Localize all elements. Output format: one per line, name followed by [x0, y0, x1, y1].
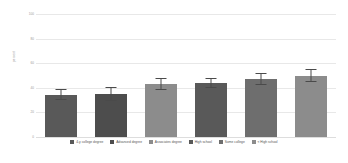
- legend-item[interactable]: Advanced degree: [110, 140, 142, 144]
- gridline: [36, 137, 336, 138]
- bar-chart: percent 100806040200 4-y college degreeA…: [0, 0, 348, 163]
- error-bar: [161, 78, 162, 90]
- error-bar-cap-bottom: [306, 81, 317, 82]
- legend-item[interactable]: High school: [189, 140, 212, 144]
- y-axis-tick-label: 100: [20, 13, 34, 16]
- y-axis-tick-label: 40: [20, 86, 34, 89]
- error-bar-cap-bottom: [256, 84, 267, 85]
- y-axis-tick-label: 0: [20, 136, 34, 139]
- legend-item-label: Associates degree: [155, 140, 182, 144]
- bar[interactable]: [245, 79, 277, 137]
- legend-swatch-icon: [110, 140, 114, 144]
- legend-swatch-icon: [70, 140, 74, 144]
- bar[interactable]: [45, 95, 77, 137]
- plot-area: [36, 14, 336, 137]
- legend-item-label: High school: [195, 140, 212, 144]
- error-bar-cap-top: [306, 69, 317, 70]
- legend-item-label: Some college: [225, 140, 245, 144]
- legend: 4-y college degreeAdvanced degreeAssocia…: [0, 140, 348, 144]
- bars-layer: [36, 14, 336, 137]
- y-axis-tick-label: 20: [20, 111, 34, 114]
- bar-group[interactable]: [145, 14, 177, 137]
- error-bar-cap-bottom: [106, 100, 117, 101]
- error-bar-cap-bottom: [156, 89, 167, 90]
- error-bar-cap-bottom: [56, 99, 67, 100]
- bar-group[interactable]: [95, 14, 127, 137]
- legend-item[interactable]: 4-y college degree: [70, 140, 103, 144]
- bar-group[interactable]: [45, 14, 77, 137]
- error-bar-cap-top: [106, 87, 117, 88]
- legend-item[interactable]: Associates degree: [149, 140, 182, 144]
- y-axis-tick-label: 60: [20, 62, 34, 65]
- bar[interactable]: [195, 83, 227, 137]
- error-bar: [311, 69, 312, 81]
- bar[interactable]: [295, 76, 327, 138]
- error-bar-cap-top: [56, 89, 67, 90]
- error-bar: [211, 78, 212, 88]
- legend-swatch-icon: [149, 140, 153, 144]
- legend-item-label: < High school: [258, 140, 278, 144]
- bar[interactable]: [145, 84, 177, 137]
- legend-swatch-icon: [252, 140, 256, 144]
- legend-item[interactable]: Some college: [219, 140, 245, 144]
- bar-group[interactable]: [295, 14, 327, 137]
- y-axis-tick-label: 80: [20, 37, 34, 40]
- error-bar-cap-top: [256, 73, 267, 74]
- bar-group[interactable]: [195, 14, 227, 137]
- y-axis-title: percent: [13, 51, 16, 62]
- error-bar: [61, 89, 62, 100]
- legend-swatch-icon: [189, 140, 193, 144]
- legend-item[interactable]: < High school: [252, 140, 278, 144]
- legend-item-label: 4-y college degree: [76, 140, 103, 144]
- error-bar-cap-top: [206, 78, 217, 79]
- legend-swatch-icon: [219, 140, 223, 144]
- error-bar: [261, 73, 262, 85]
- error-bar-cap-bottom: [206, 87, 217, 88]
- legend-item-label: Advanced degree: [116, 140, 142, 144]
- error-bar-cap-top: [156, 78, 167, 79]
- bar-group[interactable]: [245, 14, 277, 137]
- error-bar: [111, 87, 112, 102]
